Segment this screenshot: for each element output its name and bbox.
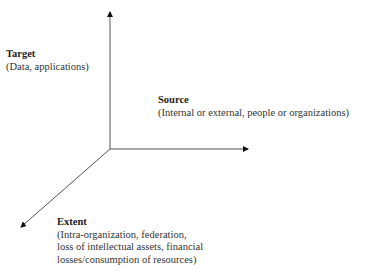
target-title: Target <box>6 48 89 61</box>
extent-title: Extent <box>57 216 203 229</box>
source-axis-label: Source (Internal or external, people or … <box>158 94 349 119</box>
extent-description-line-3: losses/consumption of resources) <box>57 254 203 267</box>
extent-axis-label: Extent (Intra-organization, federation, … <box>57 216 203 266</box>
extent-description-line-2: loss of intellectual assets, financial <box>57 241 203 254</box>
target-axis-label: Target (Data, applications) <box>6 48 89 73</box>
extent-description-line-1: (Intra-organization, federation, <box>57 229 203 242</box>
source-title: Source <box>158 94 349 107</box>
source-description: (Internal or external, people or organiz… <box>158 107 349 120</box>
target-description: (Data, applications) <box>6 61 89 74</box>
